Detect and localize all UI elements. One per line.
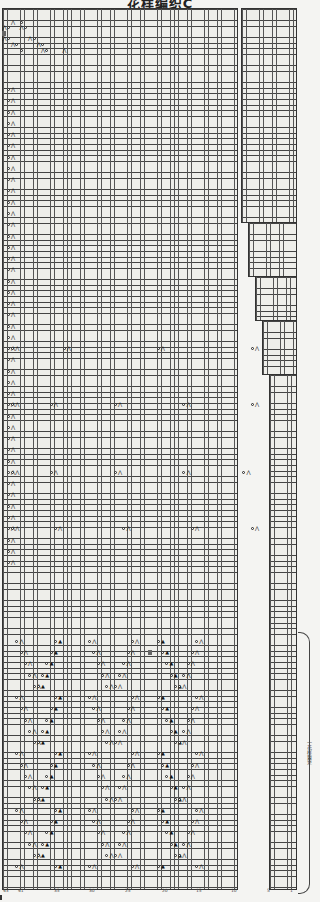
decrease-icon: ⋀ bbox=[28, 718, 33, 723]
decrease-icon: ⋀ bbox=[23, 706, 28, 711]
decrease-icon: ⋀ bbox=[32, 842, 37, 847]
yarn-over-icon bbox=[191, 820, 194, 823]
decrease-icon: ⋀ bbox=[96, 819, 101, 824]
decrease-icon: ⋀ bbox=[122, 729, 127, 734]
yarn-over-icon bbox=[170, 674, 173, 677]
decrease-icon: ⋀ bbox=[255, 346, 260, 351]
decrease-icon: ⋀ bbox=[11, 20, 16, 25]
decrease-icon: ⋀ bbox=[195, 763, 200, 768]
decrease-icon: ⋀ bbox=[122, 673, 127, 678]
center-decrease-icon: ▲ bbox=[173, 842, 178, 847]
yarn-over-icon bbox=[37, 854, 40, 857]
yarn-over-icon bbox=[33, 741, 36, 744]
decrease-icon: ⋀ bbox=[15, 346, 20, 351]
decrease-icon: ⋀ bbox=[100, 774, 105, 779]
decrease-icon: ⋀ bbox=[96, 763, 101, 768]
yarn-over-icon bbox=[114, 685, 117, 688]
decrease-icon: ⋀ bbox=[190, 661, 195, 666]
center-decrease-icon: ▲ bbox=[165, 819, 170, 824]
decrease-icon: ⋀ bbox=[92, 864, 97, 869]
decrease-icon: ⋀ bbox=[190, 774, 195, 779]
decrease-icon: ⋀ bbox=[11, 447, 16, 452]
decrease-icon: ⋀ bbox=[190, 830, 195, 835]
center-decrease-icon: ▲ bbox=[173, 785, 178, 790]
yarn-over-icon bbox=[7, 347, 10, 350]
center-decrease-icon: ▲ bbox=[49, 774, 54, 779]
center-decrease-icon: ▲ bbox=[169, 661, 174, 666]
decrease-icon: ⋀ bbox=[92, 808, 97, 813]
yarn-over-icon bbox=[63, 347, 66, 350]
yarn-over-icon bbox=[7, 550, 10, 553]
decrease-icon: ⋀ bbox=[100, 718, 105, 723]
yarn-over-icon bbox=[7, 111, 10, 114]
yarn-over-icon bbox=[195, 809, 198, 812]
yarn-over-icon bbox=[170, 786, 173, 789]
decrease-icon: ⋀ bbox=[182, 853, 187, 858]
column-number: 35 bbox=[54, 888, 60, 893]
decrease-icon: ⋀ bbox=[186, 470, 191, 475]
decrease-icon: ⋀ bbox=[11, 256, 16, 261]
yarn-over-icon bbox=[7, 392, 10, 395]
decrease-icon: ⋀ bbox=[182, 797, 187, 802]
decrease-icon: ⋀ bbox=[186, 785, 191, 790]
decrease-icon: ⋀ bbox=[11, 166, 16, 171]
decrease-icon: ⋀ bbox=[126, 661, 131, 666]
center-decrease-icon: ▲ bbox=[173, 673, 178, 678]
yarn-over-icon bbox=[118, 674, 121, 677]
yarn-over-icon bbox=[251, 403, 254, 406]
decrease-icon: ⋀ bbox=[122, 785, 127, 790]
decrease-icon: ⋀ bbox=[19, 808, 24, 813]
decrease-icon: ⋀ bbox=[100, 830, 105, 835]
right-panel-segment-4 bbox=[262, 320, 297, 375]
decrease-icon: ⋀ bbox=[255, 526, 260, 531]
decrease-icon: ⋀ bbox=[62, 48, 67, 53]
decrease-icon: ⋀ bbox=[135, 639, 140, 644]
decrease-icon: ⋀ bbox=[15, 402, 20, 407]
decrease-icon: ⋀ bbox=[11, 155, 16, 160]
decrease-icon: ⋀ bbox=[135, 695, 140, 700]
yarn-over-icon bbox=[28, 843, 31, 846]
decrease-icon: ⋀ bbox=[199, 695, 204, 700]
decrease-icon: ⋀ bbox=[23, 763, 28, 768]
decrease-icon: ⋀ bbox=[11, 492, 16, 497]
decrease-icon: ⋀ bbox=[11, 515, 16, 520]
yarn-over-icon bbox=[7, 381, 10, 384]
yarn-over-icon bbox=[114, 854, 117, 857]
column-number: 20 bbox=[162, 888, 168, 893]
yarn-over-icon bbox=[7, 460, 10, 463]
decrease-icon: ⋀ bbox=[11, 222, 16, 227]
decrease-icon: ⋀ bbox=[28, 774, 33, 779]
decrease-icon: ⋀ bbox=[182, 740, 187, 745]
yarn-over-icon bbox=[191, 651, 194, 654]
yarn-over-icon bbox=[54, 809, 57, 812]
yarn-over-icon bbox=[242, 471, 245, 474]
decrease-icon: ⋀ bbox=[96, 650, 101, 655]
center-decrease-icon: ▲ bbox=[160, 639, 165, 644]
decrease-icon: ⋀ bbox=[11, 459, 16, 464]
center-decrease-icon: ▲ bbox=[165, 763, 170, 768]
yarn-over-icon bbox=[157, 809, 160, 812]
yarn-over-icon bbox=[7, 561, 10, 564]
center-decrease-icon: ▲ bbox=[165, 650, 170, 655]
yarn-over-icon bbox=[7, 257, 10, 260]
decrease-icon: ⋀ bbox=[118, 853, 123, 858]
decrease-icon: ⋀ bbox=[118, 740, 123, 745]
yarn-over-icon bbox=[50, 651, 53, 654]
decrease-icon: ⋀ bbox=[11, 267, 16, 272]
yarn-over-icon bbox=[7, 156, 10, 159]
center-decrease-icon: ▲ bbox=[41, 797, 46, 802]
yarn-over-icon bbox=[7, 246, 10, 249]
yarn-over-icon bbox=[170, 730, 173, 733]
yarn-over-icon bbox=[127, 820, 130, 823]
yarn-over-icon bbox=[50, 820, 53, 823]
yarn-over-icon bbox=[127, 764, 130, 767]
decrease-icon: ⋀ bbox=[28, 830, 33, 835]
decrease-icon: ⋀ bbox=[11, 279, 16, 284]
yarn-over-icon bbox=[33, 685, 36, 688]
decrease-icon: ⋀ bbox=[11, 369, 16, 374]
yarn-over-icon bbox=[37, 685, 40, 688]
decrease-icon: ⋀ bbox=[126, 718, 131, 723]
yarn-over-icon bbox=[178, 685, 181, 688]
yarn-over-icon bbox=[114, 798, 117, 801]
yarn-over-icon bbox=[174, 685, 177, 688]
